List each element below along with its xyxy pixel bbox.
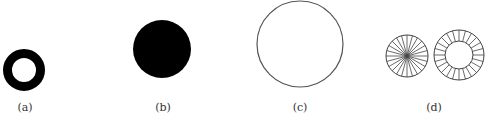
panel-a-ring-icon bbox=[8, 54, 41, 87]
panel-d-spoked-circle-icon bbox=[386, 35, 428, 77]
label-d: (d) bbox=[414, 101, 454, 114]
label-b: (b) bbox=[143, 101, 183, 114]
label-a: (a) bbox=[5, 101, 45, 114]
label-c: (c) bbox=[280, 101, 320, 114]
panel-b-disk-icon bbox=[133, 20, 191, 78]
panel-d-spoked-ring-icon bbox=[434, 30, 484, 80]
panel-c-circle-icon bbox=[257, 1, 343, 87]
